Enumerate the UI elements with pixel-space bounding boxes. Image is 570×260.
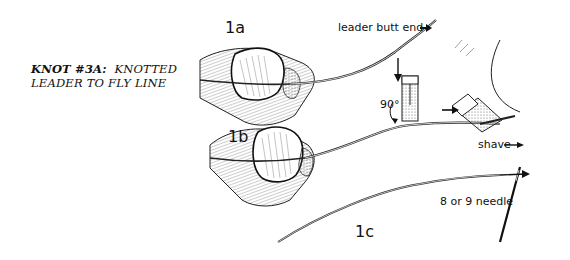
thumb-1b-illustration: [210, 123, 500, 206]
step-label-1a: 1a: [225, 18, 245, 37]
step-label-1c: 1c: [355, 222, 374, 241]
angle-label: 90°: [380, 98, 400, 111]
knot-illustration: [0, 0, 570, 260]
shave-arrowhead-icon: [517, 142, 524, 148]
step-label-1b: 1b: [228, 127, 248, 146]
shave-label: shave: [478, 138, 511, 151]
leader-butt-end-label: leader butt end: [338, 21, 423, 34]
needle-label: 8 or 9 needle: [440, 195, 513, 208]
razor-blade-illustration: [390, 40, 520, 132]
